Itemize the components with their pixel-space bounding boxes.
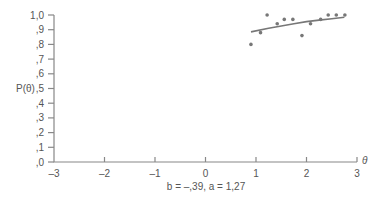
y-axis-label: P(θ) — [16, 83, 35, 94]
y-tick-label: ,6 — [36, 68, 45, 79]
data-point — [275, 22, 279, 26]
x-tick-label: 0 — [203, 168, 209, 179]
data-point — [319, 18, 323, 22]
y-tick-label: ,9 — [36, 24, 45, 35]
x-tick-label: 2 — [304, 168, 310, 179]
axis-lines — [54, 15, 357, 162]
x-tick-label: –1 — [149, 168, 161, 179]
y-tick-label: ,4 — [36, 98, 45, 109]
x-tick-label: –2 — [99, 168, 111, 179]
data-point — [326, 13, 330, 17]
y-tick-label: ,3 — [36, 112, 45, 123]
x-tick-label: 3 — [354, 168, 360, 179]
y-tick-label: ,0 — [36, 157, 45, 168]
y-tick-label: ,2 — [36, 127, 45, 138]
data-point — [309, 22, 313, 26]
y-tick-label: ,1 — [36, 142, 45, 153]
x-axis-label: θ — [362, 155, 368, 166]
y-tick-label: ,8 — [36, 39, 45, 50]
data-point — [343, 13, 347, 17]
fitted-curve — [251, 17, 344, 32]
y-tick-label: ,5 — [36, 83, 45, 94]
axes — [54, 15, 357, 162]
icc-chart: ,0,1,2,3,4,5,6,7,8,91,0 –3–2–10123 P(θ) … — [0, 0, 380, 201]
x-tick-label: 1 — [253, 168, 259, 179]
y-tick-label: ,7 — [36, 54, 45, 65]
x-axis-ticks: –3–2–10123 — [48, 157, 360, 179]
y-tick-label: 1,0 — [30, 10, 44, 21]
data-point — [291, 18, 295, 22]
data-point — [300, 34, 304, 38]
parameter-caption: b = –,39, a = 1,27 — [167, 181, 246, 192]
data-point — [282, 18, 286, 22]
x-tick-label: –3 — [48, 168, 60, 179]
data-point — [334, 13, 338, 17]
data-point — [259, 31, 263, 35]
data-point — [265, 13, 269, 17]
data-point — [249, 43, 253, 47]
